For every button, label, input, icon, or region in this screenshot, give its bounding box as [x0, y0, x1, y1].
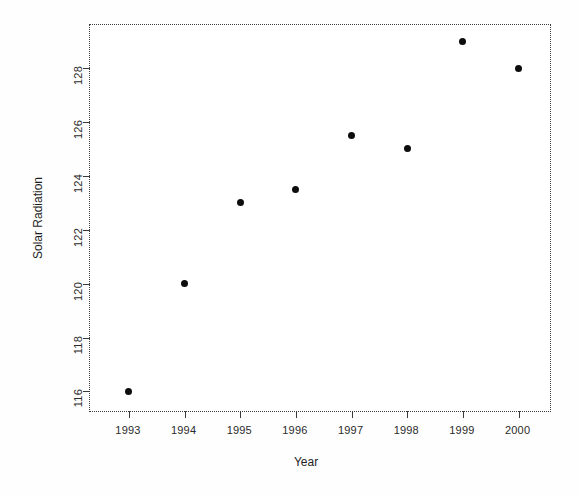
x-axis-tick-label: 2000	[505, 424, 530, 436]
data-point	[404, 145, 411, 152]
data-point	[125, 388, 132, 395]
x-axis-tick	[463, 411, 464, 418]
data-point	[515, 65, 522, 72]
y-axis-tick-label: 124	[72, 174, 84, 193]
y-axis-tick	[83, 68, 90, 69]
x-axis-tick-label: 1996	[282, 424, 307, 436]
x-axis-tick	[519, 411, 520, 418]
plot-area	[89, 24, 551, 412]
y-axis-tick	[83, 122, 90, 123]
y-axis-tick-label: 118	[72, 336, 84, 354]
y-axis-tick-label: 126	[72, 120, 84, 139]
y-axis-tick	[83, 230, 90, 231]
x-axis-tick-label: 1994	[171, 424, 196, 436]
x-axis-tick-label: 1995	[227, 424, 252, 436]
scatter-plot-figure: Solar Radiation 116118120122124126128 19…	[0, 0, 580, 496]
x-axis-tick-label: 1997	[338, 424, 363, 436]
y-axis-tick-label: 128	[72, 66, 84, 85]
data-point	[459, 38, 466, 45]
x-axis-tick	[185, 411, 186, 418]
data-point	[348, 132, 355, 139]
x-axis-tick-label: 1998	[394, 424, 419, 436]
x-axis-tick	[129, 411, 130, 418]
y-axis-tick-label: 122	[72, 228, 84, 247]
y-axis-tick-label: 116	[72, 389, 84, 407]
x-axis-tick	[352, 411, 353, 418]
x-axis-tick-label: 1993	[115, 424, 140, 436]
data-point	[237, 199, 244, 206]
x-axis-tick	[240, 411, 241, 418]
x-axis-title: Year	[294, 455, 318, 469]
y-axis-tick	[83, 176, 90, 177]
y-axis-title: Solar Radiation	[31, 118, 45, 318]
x-axis-tick	[407, 411, 408, 418]
data-point	[181, 280, 188, 287]
y-axis-tick-label: 120	[72, 282, 84, 301]
x-axis-tick	[296, 411, 297, 418]
y-axis-tick	[83, 284, 90, 285]
x-axis-tick-label: 1999	[449, 424, 474, 436]
data-point	[292, 186, 299, 193]
